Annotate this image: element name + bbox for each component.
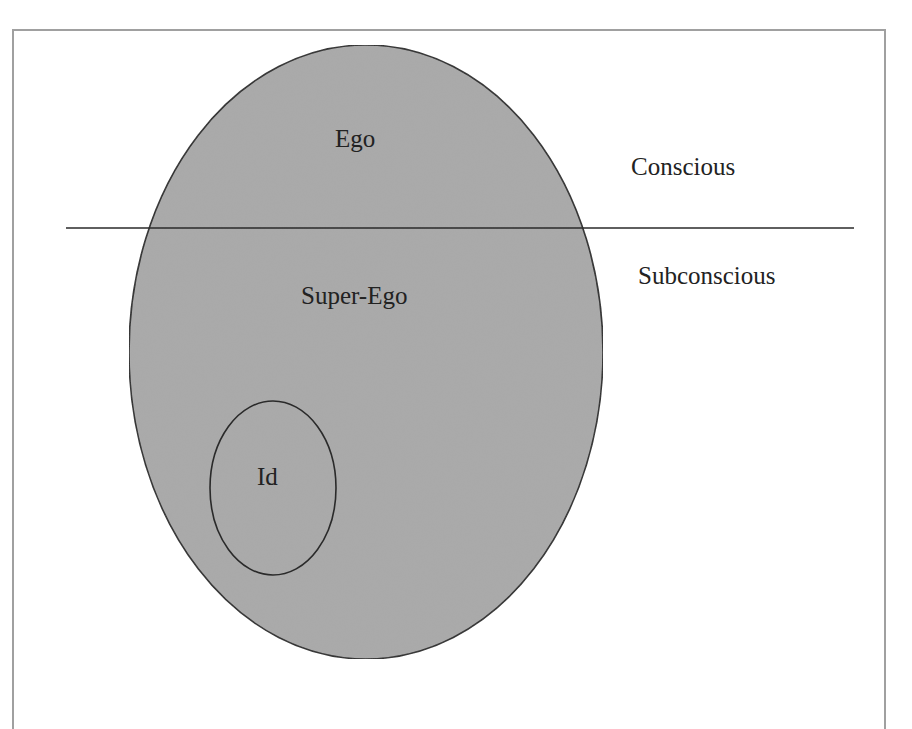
super-ego-label: Super-Ego <box>301 283 407 308</box>
ego-label: Ego <box>335 126 375 151</box>
id-label: Id <box>257 464 278 489</box>
conscious-label: Conscious <box>631 154 735 179</box>
subconscious-label: Subconscious <box>638 263 776 288</box>
